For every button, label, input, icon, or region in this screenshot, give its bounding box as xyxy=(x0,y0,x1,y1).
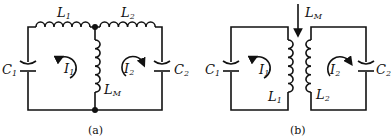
label-LM-b: LM xyxy=(304,5,323,21)
inductor-L1-coil xyxy=(36,22,90,27)
wire-a-right-top xyxy=(155,27,162,62)
label-L2: L2 xyxy=(120,5,135,21)
capacitor-C2-symbol-b xyxy=(358,61,374,71)
capacitor-C1-symbol-b xyxy=(223,61,239,71)
label-C2: C2 xyxy=(174,62,189,78)
label-L1: L1 xyxy=(56,5,71,21)
label-L1-b: L1 xyxy=(267,89,282,105)
inductor-L2-coil-b xyxy=(306,40,311,92)
caption-a: (a) xyxy=(88,124,103,137)
label-LM: LM xyxy=(103,82,122,98)
label-L2-b: L2 xyxy=(315,87,330,103)
circuit-b: LM C1 C2 I1 I2 L1 L2 (b) xyxy=(205,4,391,137)
coupled-circuits-figure: L1 L2 C1 C2 I1 I2 LM (a) xyxy=(0,0,391,140)
label-C1-b: C1 xyxy=(205,62,220,78)
inductor-L1-coil-b xyxy=(288,40,293,92)
capacitor-C2-symbol xyxy=(154,61,170,71)
caption-b: (b) xyxy=(290,124,306,137)
label-I2: I2 xyxy=(123,61,134,77)
inductor-L2-coil xyxy=(100,22,155,27)
inductor-LM-coil xyxy=(95,40,100,92)
label-I1-b: I1 xyxy=(258,62,269,78)
label-I2-b: I2 xyxy=(329,62,340,78)
label-I1: I1 xyxy=(63,61,74,77)
circuit-a: L1 L2 C1 C2 I1 I2 LM (a) xyxy=(2,5,189,137)
wire-a-left-top xyxy=(28,27,36,62)
capacitor-C1-symbol xyxy=(20,61,36,71)
junction-bottom-dot xyxy=(92,107,98,113)
label-C2-b: C2 xyxy=(376,62,391,78)
junction-top-dot xyxy=(92,24,98,30)
label-C1: C1 xyxy=(2,62,17,78)
